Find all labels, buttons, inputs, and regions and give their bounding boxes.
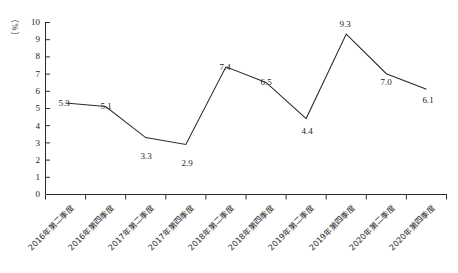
line-chart: （%） 10 9 8 7 6 5 4 3 2 1 0 [0,0,458,273]
x-axis-category-labels: 2016年第二季度 2016年第四季度 2017年第二季度 2017年第四季度 … [0,0,458,273]
